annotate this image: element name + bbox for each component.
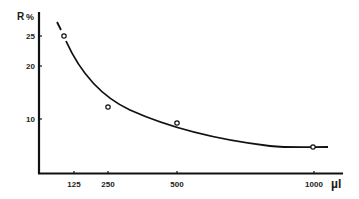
data-point-1000 [311, 145, 315, 149]
x-tick-label-1000: 1000 [305, 180, 323, 189]
y-tick-label-20: 20 [26, 62, 35, 71]
data-point-500 [175, 121, 179, 125]
data-point-125 [62, 34, 66, 38]
x-tick-label-125: 125 [67, 180, 81, 189]
chart-canvas: 25 20 10 R % 125 250 500 1000 µl [0, 0, 359, 199]
y-axis-title-r: R [17, 11, 25, 22]
y-tick-label-10: 10 [26, 115, 35, 124]
y-tick-label-25: 25 [26, 32, 35, 41]
data-point-250 [106, 105, 110, 109]
x-axis-unit: µl [331, 177, 341, 191]
x-tick-label-500: 500 [170, 180, 184, 189]
x-tick-label-250: 250 [101, 180, 115, 189]
fitted-curve [57, 22, 328, 147]
y-axis-title-percent: % [26, 12, 34, 22]
data-points [62, 34, 315, 149]
